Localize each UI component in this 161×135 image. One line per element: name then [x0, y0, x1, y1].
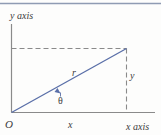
radius-label: r [72, 68, 76, 78]
y-axis-label: y axis [10, 11, 33, 21]
vector-components-diagram: y axis x axis O r θ x y [0, 0, 161, 135]
x-component-label: x [68, 120, 72, 130]
angle-arc-icon [55, 88, 61, 94]
origin-label: O [5, 119, 13, 130]
vector-r-line [12, 49, 127, 113]
y-component-label: y [130, 71, 134, 81]
angle-theta-label: θ [58, 96, 63, 106]
x-axis-label: x axis [126, 122, 149, 132]
